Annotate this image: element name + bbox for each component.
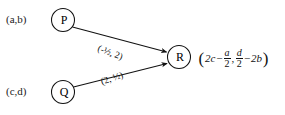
- node-label-p: P: [54, 13, 74, 28]
- edge-arrow-p-to-r: [73, 27, 167, 52]
- expression-close-paren: ): [262, 50, 269, 67]
- result-coordinate-expression: ( 2c − a 2 , d 2 − 2b ): [198, 48, 269, 69]
- expression-y-fraction: d 2: [236, 48, 243, 69]
- expression-x-fraction: a 2: [224, 48, 231, 69]
- node-label-q: Q: [54, 85, 74, 100]
- diagram-canvas: (a,b) (c,d) P Q R (-½, 2) (2, ½) ( 2c − …: [0, 0, 285, 115]
- expression-y-operator: −: [243, 53, 250, 64]
- expression-x-operator: −: [216, 53, 223, 64]
- expression-y-denominator: 2: [236, 59, 243, 69]
- coordinate-label-p: (a,b): [6, 13, 26, 25]
- expression-x-numerator: a: [224, 48, 231, 58]
- expression-separator: ,: [231, 53, 235, 64]
- expression-y-trail: 2b: [251, 53, 263, 64]
- expression-x-denominator: 2: [224, 59, 231, 69]
- expression-x-lead: 2c: [205, 53, 216, 64]
- expression-y-numerator: d: [236, 48, 243, 58]
- coordinate-label-q: (c,d): [6, 85, 26, 97]
- node-label-r: R: [170, 50, 190, 65]
- expression-open-paren: (: [198, 50, 205, 67]
